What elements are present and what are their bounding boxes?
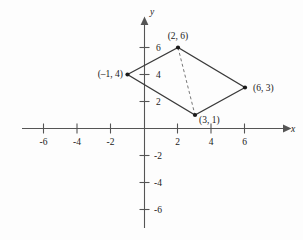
y-tick-label-neg2: -2 <box>154 151 162 161</box>
y-axis-label: y <box>149 7 155 17</box>
plot-canvas: -6 -4 -2 2 4 6 6 4 2 -2 -4 -6 x y (–1, 4… <box>0 0 303 240</box>
x-tick-label-neg4: -4 <box>73 137 81 147</box>
vertex-point-6-3 <box>243 85 247 89</box>
x-tick-label-pos4: 4 <box>209 137 214 147</box>
x-tick-label-neg2: -2 <box>107 137 115 147</box>
x-axis-label: x <box>290 124 296 134</box>
vertex-point-3-1 <box>193 113 197 117</box>
diagonal-dashed-line <box>178 48 195 116</box>
y-tick-label-pos4: 4 <box>156 70 161 80</box>
x-tick-label-pos2: 2 <box>175 137 180 147</box>
vertex-point-neg1-4 <box>125 72 129 76</box>
point-label-3-1: (3, 1) <box>199 115 220 126</box>
point-label-6-3: (6, 3) <box>253 83 274 94</box>
x-tick-label-pos6: 6 <box>242 137 247 147</box>
y-tick-label-pos2: 2 <box>156 97 161 107</box>
coordinate-plane-figure: -6 -4 -2 2 4 6 6 4 2 -2 -4 -6 x y (–1, 4… <box>0 0 303 240</box>
x-tick-label-neg6: -6 <box>40 137 48 147</box>
y-tick-label-neg4: -4 <box>154 178 162 188</box>
y-tick-label-neg6: -6 <box>154 205 162 215</box>
y-tick-label-pos6: 6 <box>156 43 161 53</box>
point-label-neg1-4: (–1, 4) <box>98 69 123 80</box>
point-label-2-6: (2, 6) <box>168 31 189 42</box>
y-axis-arrow-icon <box>141 17 149 26</box>
vertex-point-2-6 <box>176 45 180 49</box>
